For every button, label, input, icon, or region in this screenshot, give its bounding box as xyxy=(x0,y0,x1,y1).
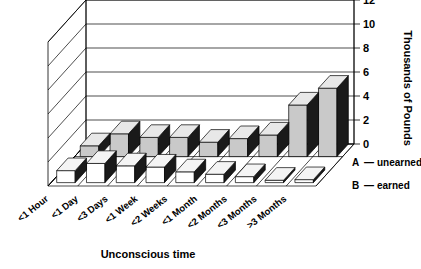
bar-earned-6 xyxy=(206,162,236,183)
y-axis: 024681012 xyxy=(354,0,375,150)
y-axis-title: Thousands of Pounds xyxy=(402,30,414,146)
chart-figure: 024681012Thousands of Pounds<1 Hour<1 Da… xyxy=(0,0,421,269)
bar-unearned-8 xyxy=(289,92,319,156)
bar-front-face xyxy=(176,172,194,183)
legend-key-b: B xyxy=(352,180,359,191)
bar-earned-9 xyxy=(295,167,325,183)
x-axis-tick-label-1: <1 Hour xyxy=(15,193,50,224)
legend-item-b: B—earned xyxy=(352,180,410,191)
bar-front-face xyxy=(146,167,164,183)
legend-text-a: unearned xyxy=(377,157,421,168)
y-axis-tick-label: 4 xyxy=(363,90,370,102)
gridline-y-sidewall xyxy=(48,24,86,66)
legend-text-b: earned xyxy=(377,180,410,191)
y-axis-tick-label: 0 xyxy=(363,138,369,150)
bar-earned-1 xyxy=(57,158,87,183)
gridline-y-sidewall xyxy=(48,48,86,90)
bar-front-face xyxy=(57,171,75,183)
bar-earned-8 xyxy=(265,168,295,183)
bar-unearned-9 xyxy=(318,76,348,157)
bar-front-face xyxy=(170,137,188,156)
bar-front-face xyxy=(206,174,224,182)
y-axis-tick-label: 6 xyxy=(363,66,369,78)
bar-front-face xyxy=(289,105,307,157)
bar-earned-3 xyxy=(116,153,146,182)
chart-canvas: 024681012Thousands of Pounds<1 Hour<1 Da… xyxy=(0,0,421,269)
bar-unearned-3 xyxy=(140,125,170,157)
chart-bars xyxy=(57,76,349,183)
legend-dash-a: — xyxy=(364,157,374,168)
x-axis-labels: <1 Hour<1 Day<3 Days<1 Week<2 Weeks<1 Mo… xyxy=(15,192,288,230)
gridline-y-sidewall xyxy=(48,96,86,138)
y-axis-tick-label: 2 xyxy=(363,114,369,126)
y-axis-tick-label: 12 xyxy=(363,0,375,6)
bar-front-face xyxy=(116,166,134,183)
legend-dash-b: — xyxy=(364,180,374,191)
y-axis-tick-label: 10 xyxy=(363,18,375,30)
bar-front-face xyxy=(259,135,277,157)
bar-front-face xyxy=(235,177,253,183)
legend-key-a: A xyxy=(352,157,359,168)
bar-unearned-4 xyxy=(170,125,200,157)
x-axis-title: Unconscious time xyxy=(101,248,196,260)
bar-unearned-5 xyxy=(199,130,229,157)
gridline-y-sidewall xyxy=(48,0,86,42)
bar-front-face xyxy=(229,139,247,157)
bar-front-face xyxy=(318,88,336,156)
bar-side-face xyxy=(337,76,348,157)
bar-front-face xyxy=(265,180,283,182)
y-axis-tick-label: 8 xyxy=(363,42,369,54)
gridline-y-sidewall xyxy=(48,72,86,114)
bar-earned-5 xyxy=(176,159,206,182)
bar-earned-4 xyxy=(146,154,176,182)
legend-item-a: A—unearned xyxy=(352,157,421,168)
bar-earned-7 xyxy=(235,164,265,183)
bar-front-face xyxy=(295,180,313,183)
bar-unearned-7 xyxy=(259,122,289,156)
chart-legend: A—unearnedB—earned xyxy=(352,157,421,191)
bar-front-face xyxy=(199,142,217,156)
bar-front-face xyxy=(86,163,104,182)
bar-unearned-6 xyxy=(229,126,259,157)
